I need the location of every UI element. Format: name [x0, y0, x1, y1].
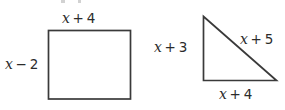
- triangle-hypotenuse-label: x+5: [240, 32, 273, 47]
- triangle-vertical-leg-variable: x: [154, 39, 162, 55]
- triangle-horizontal-leg-variable: x: [219, 86, 227, 102]
- rectangle-top-variable: x: [62, 10, 70, 26]
- triangle-horizontal-leg-constant: 4: [244, 86, 253, 102]
- triangle-vertical-leg-operator: +: [162, 39, 179, 55]
- rectangle-top-constant: 4: [87, 10, 96, 26]
- rectangle-left-operator: −: [13, 56, 30, 72]
- geometry-figure: x+4 x−2 x+3 x+5 x+4: [0, 0, 285, 110]
- triangle-horizontal-leg-label: x+4: [219, 87, 252, 102]
- rectangle-shape: [49, 31, 131, 100]
- triangle-horizontal-leg-operator: +: [227, 86, 244, 102]
- rectangle-top-operator: +: [70, 10, 87, 26]
- rectangle-left-label: x−2: [5, 57, 38, 72]
- right-triangle-shape: [204, 17, 277, 81]
- triangle-hypotenuse-variable: x: [240, 31, 248, 47]
- triangle-hypotenuse-operator: +: [248, 31, 265, 47]
- rectangle-left-variable: x: [5, 56, 13, 72]
- rectangle-left-constant: 2: [30, 56, 39, 72]
- triangle-hypotenuse-constant: 5: [265, 31, 274, 47]
- triangle-vertical-leg-constant: 3: [179, 39, 188, 55]
- triangle-vertical-leg-label: x+3: [154, 40, 187, 55]
- rectangle-top-label: x+4: [62, 11, 95, 26]
